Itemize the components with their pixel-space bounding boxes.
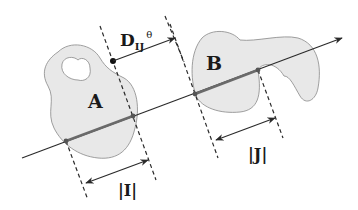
- distance-subscript: IJ: [135, 41, 145, 52]
- interval-i-arrow: [86, 160, 148, 183]
- dashed-b-right: [258, 70, 283, 138]
- region-b-label: B: [206, 52, 222, 74]
- interval-j-label: |J|: [248, 145, 267, 164]
- interval-i-label: |I|: [118, 181, 137, 200]
- distance-main: D: [120, 30, 135, 50]
- dashed-d-right: [165, 16, 184, 62]
- projection-diagram: A B DIJθ |I| |J|: [0, 0, 358, 210]
- distance-superscript: θ: [146, 29, 152, 40]
- region-a-label: A: [87, 90, 103, 112]
- interval-j-arrow: [216, 118, 275, 140]
